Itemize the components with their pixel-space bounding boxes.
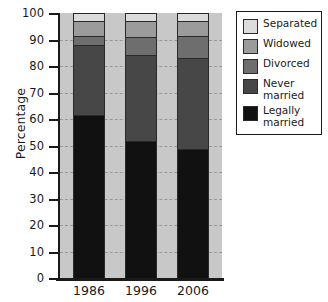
y-tick-mark	[49, 119, 58, 121]
y-tick-label: 80	[4, 59, 44, 73]
y-tick-mark	[49, 252, 58, 254]
bar-2006[interactable]	[177, 0, 209, 302]
y-tick-label: 20	[4, 218, 44, 232]
y-tick-label: 90	[4, 33, 44, 47]
bar-segment-widowed-1986[interactable]	[73, 21, 105, 36]
bar-segment-legally-married-1996[interactable]	[125, 141, 157, 278]
bar-segment-separated-1996[interactable]	[125, 13, 157, 21]
bar-1996[interactable]	[125, 0, 157, 302]
y-tick-mark	[49, 40, 58, 42]
legend-label: Separated	[263, 18, 317, 30]
x-tick-label-1986: 1986	[59, 283, 119, 298]
stacked-bar-chart: Percentage 0102030405060708090100 198619…	[0, 0, 328, 302]
y-tick-mark	[49, 13, 58, 15]
legend-item-never-married[interactable]: Never married	[243, 78, 317, 101]
bar-segment-legally-married-1986[interactable]	[73, 115, 105, 278]
legend-swatch-icon	[243, 39, 258, 54]
bar-segment-never-married-1986[interactable]	[73, 45, 105, 115]
bar-segment-never-married-1996[interactable]	[125, 55, 157, 141]
legend-swatch-icon	[243, 79, 258, 94]
legend-label: Widowed	[263, 38, 311, 50]
y-tick-label: 100	[4, 6, 44, 20]
x-tick-label-2006: 2006	[163, 283, 223, 298]
legend: SeparatedWidowedDivorcedNever marriedLeg…	[236, 11, 322, 135]
y-tick-label: 70	[4, 86, 44, 100]
legend-item-divorced[interactable]: Divorced	[243, 58, 317, 74]
bar-1986[interactable]	[73, 0, 105, 302]
bar-segment-divorced-2006[interactable]	[177, 36, 209, 59]
bar-segment-divorced-1996[interactable]	[125, 37, 157, 56]
legend-item-widowed[interactable]: Widowed	[243, 38, 317, 54]
y-tick-mark	[49, 93, 58, 95]
y-tick-label: 60	[4, 112, 44, 126]
legend-swatch-icon	[243, 106, 258, 121]
legend-swatch-icon	[243, 19, 258, 34]
y-tick-label: 40	[4, 165, 44, 179]
y-tick-mark	[49, 278, 58, 280]
y-tick-label: 30	[4, 192, 44, 206]
y-tick-mark	[49, 66, 58, 68]
y-tick-label: 10	[4, 245, 44, 259]
legend-label: Legally married	[263, 105, 304, 128]
y-tick-label: 0	[4, 271, 44, 285]
bar-segment-legally-married-2006[interactable]	[177, 149, 209, 278]
bar-segment-divorced-1986[interactable]	[73, 36, 105, 45]
y-tick-mark	[49, 199, 58, 201]
legend-label: Divorced	[263, 58, 310, 70]
y-tick-mark	[49, 146, 58, 148]
legend-item-legally-married[interactable]: Legally married	[243, 105, 317, 128]
bar-segment-widowed-2006[interactable]	[177, 21, 209, 36]
bar-segment-never-married-2006[interactable]	[177, 58, 209, 149]
x-tick-label-1996: 1996	[111, 283, 171, 298]
bar-segment-separated-2006[interactable]	[177, 13, 209, 21]
legend-label: Never married	[263, 78, 304, 101]
y-tick-label: 50	[4, 139, 44, 153]
y-tick-mark	[49, 225, 58, 227]
legend-swatch-icon	[243, 59, 258, 74]
legend-item-separated[interactable]: Separated	[243, 18, 317, 34]
y-tick-mark	[49, 172, 58, 174]
bar-segment-widowed-1996[interactable]	[125, 21, 157, 37]
bar-segment-separated-1986[interactable]	[73, 13, 105, 21]
